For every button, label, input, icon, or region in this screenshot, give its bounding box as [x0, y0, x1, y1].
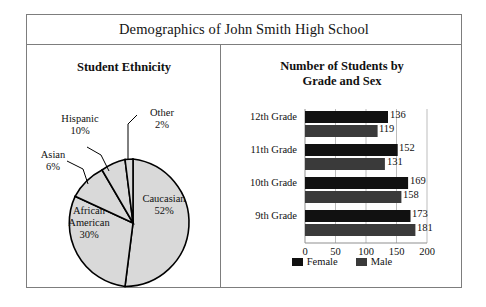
legend-swatch-male-icon	[356, 258, 367, 266]
demographics-table: Demographics of John Smith High School S…	[26, 14, 462, 288]
legend-item-female: Female	[292, 256, 338, 267]
pie-label-asian-name: Asian	[41, 149, 66, 160]
bar-value-12th-female: 136	[390, 109, 406, 120]
pie-slice-caucasian	[125, 159, 189, 287]
bar-value-10th-female: 169	[410, 175, 426, 186]
pie-label-african-american: African American 30%	[55, 205, 123, 241]
legend-item-male: Male	[356, 256, 393, 267]
table-body-row: Student Ethnicity	[27, 45, 461, 288]
bar-value-10th-male: 158	[403, 189, 419, 200]
pie-chart-cell: Student Ethnicity	[27, 45, 221, 288]
bar-chart-legend: Female Male	[221, 256, 463, 267]
bar-10th-female	[305, 177, 408, 189]
bar-category-10th: 10th Grade	[223, 177, 297, 188]
bar-chart-cell: Number of Students by Grade and Sex	[221, 45, 461, 288]
bar-category-12th: 12th Grade	[223, 111, 297, 122]
bar-11th-female	[305, 144, 398, 156]
bar-10th-male	[305, 191, 401, 203]
bar-category-11th: 11th Grade	[223, 144, 297, 155]
pie-label-african-american-name-line2: American	[68, 217, 109, 228]
pie-label-other: Other 2%	[139, 107, 185, 131]
legend-swatch-female-icon	[292, 258, 303, 266]
legend-label-female: Female	[307, 256, 338, 267]
pie-label-hispanic-percent: 10%	[70, 125, 89, 136]
pie-chart: Student Ethnicity	[27, 45, 221, 288]
pie-label-hispanic-name: Hispanic	[61, 113, 98, 124]
bar-9th-male	[305, 224, 415, 236]
table-title-row: Demographics of John Smith High School	[27, 15, 461, 45]
bar-12th-female	[305, 111, 388, 123]
bar-value-9th-female: 173	[412, 208, 428, 219]
pie-label-caucasian: Caucasian 52%	[133, 193, 195, 217]
pie-label-african-american-name-line1: African	[73, 205, 105, 216]
bar-11th-male	[305, 158, 385, 170]
bar-12th-male	[305, 125, 378, 137]
bar-value-11th-male: 131	[387, 156, 403, 167]
bar-value-11th-female: 152	[399, 142, 415, 153]
pie-label-hispanic: Hispanic 10%	[49, 113, 111, 137]
pie-label-other-percent: 2%	[155, 119, 169, 130]
pie-label-african-american-percent: 30%	[79, 229, 98, 240]
page-title: Demographics of John Smith High School	[119, 21, 369, 38]
pie-label-asian-percent: 6%	[46, 161, 60, 172]
bar-9th-female	[305, 210, 411, 222]
leader-line-other	[128, 115, 137, 159]
legend-label-male: Male	[371, 256, 393, 267]
bar-value-12th-male: 119	[379, 123, 394, 134]
bar-category-9th: 9th Grade	[223, 210, 297, 221]
bar-chart: Number of Students by Grade and Sex	[221, 45, 463, 288]
pie-label-caucasian-percent: 52%	[154, 205, 173, 216]
pie-label-caucasian-name: Caucasian	[142, 193, 185, 204]
pie-label-other-name: Other	[150, 107, 174, 118]
pie-label-asian: Asian 6%	[31, 149, 75, 173]
bar-value-9th-male: 181	[417, 222, 433, 233]
